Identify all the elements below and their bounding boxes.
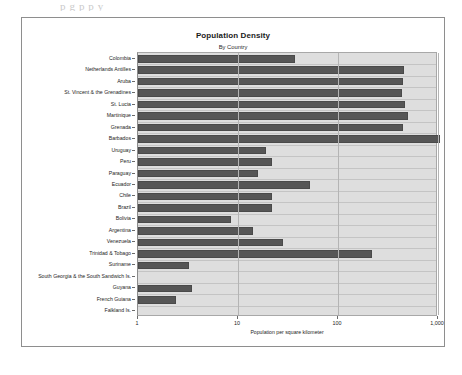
category-label: South Georgia & the South Sandwich Is.: [38, 273, 131, 279]
bar: [138, 124, 403, 132]
gridline-horizontal: [138, 294, 436, 295]
category-tick: [132, 173, 135, 174]
category-tick: [132, 127, 135, 128]
bar: [138, 170, 258, 178]
bar-row: [138, 216, 436, 224]
category-label: Paraguay: [109, 170, 131, 176]
bar: [138, 78, 403, 86]
x-tick-mark: [137, 316, 138, 319]
category-label: Peru: [120, 158, 131, 164]
category-label: Bolivia: [116, 215, 131, 221]
bar-row: [138, 307, 436, 315]
gridline-horizontal: [138, 191, 436, 192]
bar-row: [138, 204, 436, 212]
bar: [138, 285, 192, 293]
bar-row: [138, 89, 436, 97]
chart-title: Population Density: [22, 31, 444, 40]
x-tick-label: 1: [136, 320, 139, 326]
category-tick: [132, 195, 135, 196]
bar-row: [138, 66, 436, 74]
category-tick: [132, 58, 135, 59]
bar: [138, 193, 272, 201]
chart-figure-frame: Population Density By Country ColombiaNe…: [21, 17, 445, 347]
category-label: Suriname: [109, 261, 131, 267]
category-tick: [132, 218, 135, 219]
bar-row: [138, 55, 436, 63]
bar-row: [138, 193, 436, 201]
gridline-vertical: [438, 53, 439, 315]
category-tick: [132, 150, 135, 151]
category-tick: [132, 310, 135, 311]
gridline-horizontal: [138, 168, 436, 169]
category-tick: [132, 241, 135, 242]
gridline-horizontal: [138, 306, 436, 307]
category-tick: [132, 264, 135, 265]
category-label: Grenada: [111, 124, 131, 130]
bar-row: [138, 158, 436, 166]
category-label: Aruba: [117, 78, 131, 84]
gridline-horizontal: [138, 110, 436, 111]
category-label: Venezuela: [107, 238, 131, 244]
category-tick: [132, 92, 135, 93]
bar-row: [138, 227, 436, 235]
category-label: Trinidad & Tobago: [89, 250, 131, 256]
bar-row: [138, 239, 436, 247]
plot-area: [137, 52, 437, 316]
category-tick: [132, 138, 135, 139]
gridline-horizontal: [138, 248, 436, 249]
bar-row: [138, 101, 436, 109]
category-label: St. Vincent & the Grenadines: [64, 89, 131, 95]
bar: [138, 181, 310, 189]
gridline-horizontal: [138, 225, 436, 226]
bar-row: [138, 296, 436, 304]
category-label: Guyana: [113, 284, 131, 290]
gridline-vertical: [238, 53, 239, 315]
x-tick-mark: [437, 316, 438, 319]
bar: [138, 239, 283, 247]
gridline-horizontal: [138, 237, 436, 238]
category-label: Brazil: [118, 204, 131, 210]
bar: [138, 216, 231, 224]
category-tick: [132, 207, 135, 208]
bar-row: [138, 147, 436, 155]
category-tick: [132, 161, 135, 162]
category-label: St. Lucia: [111, 101, 131, 107]
bar: [138, 112, 408, 120]
gridline-horizontal: [138, 133, 436, 134]
chart-subtitle: By Country: [22, 44, 444, 50]
x-tick-label: 1,000: [430, 320, 444, 326]
category-axis: ColombiaNetherlands AntillesArubaSt. Vin…: [22, 52, 135, 316]
x-tick-label: 10: [234, 320, 240, 326]
category-label: Ecuador: [112, 181, 131, 187]
bar: [138, 262, 189, 270]
gridline-horizontal: [138, 260, 436, 261]
gridline-horizontal: [138, 156, 436, 157]
bar-row: [138, 181, 436, 189]
category-tick: [132, 184, 135, 185]
bar: [138, 66, 404, 74]
category-label: Barbados: [109, 135, 131, 141]
bar: [138, 158, 272, 166]
category-label: French Guiana: [97, 296, 131, 302]
x-tick-mark: [237, 316, 238, 319]
bar-row: [138, 112, 436, 120]
gridline-horizontal: [138, 87, 436, 88]
category-label: Martinique: [107, 112, 131, 118]
figure-page: p g p p y_ Population Density By Country…: [0, 0, 462, 375]
bar: [138, 227, 253, 235]
bar-row: [138, 262, 436, 270]
category-tick: [132, 253, 135, 254]
bar: [138, 55, 295, 63]
gridline-horizontal: [138, 271, 436, 272]
gridline-vertical: [338, 53, 339, 315]
gridline-horizontal: [138, 283, 436, 284]
category-label: Argentina: [109, 227, 131, 233]
category-label: Netherlands Antilles: [85, 66, 131, 72]
bar: [138, 204, 272, 212]
gridline-horizontal: [138, 64, 436, 65]
gridline-horizontal: [138, 179, 436, 180]
category-tick: [132, 115, 135, 116]
bar-row: [138, 170, 436, 178]
gridline-horizontal: [138, 202, 436, 203]
bar-row: [138, 285, 436, 293]
